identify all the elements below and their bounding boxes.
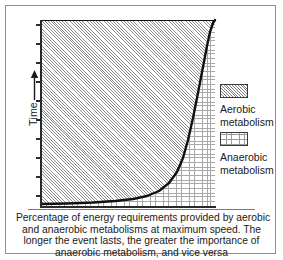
x-axis-line [40,206,216,208]
legend-label-anaerobic-line2: metabolism [220,164,282,177]
legend-item-aerobic: Aerobic metabolism [220,84,282,128]
figure-frame: Time Aerobic metabolism Anaerobic metabo… [5,5,276,254]
caption-line-2: and anaerobic metabolisms at maximum spe… [16,224,267,236]
y-axis-tick [36,62,41,64]
legend-label-aerobic-line1: Aerobic [220,103,282,116]
legend-label-aerobic: Aerobic metabolism [220,103,282,128]
figure-caption: Percentage of energy requirements provid… [16,212,267,258]
y-axis-tick [36,157,41,159]
caption-divider [28,209,255,210]
caption-line-3: longer the event lasts, the greater the … [16,235,267,247]
y-axis-tick [36,195,41,197]
legend-item-anaerobic: Anaerobic metabolism [220,132,282,176]
y-axis-label: Time [27,84,39,144]
legend-label-anaerobic-line1: Anaerobic [220,151,282,164]
y-axis-tick [36,24,41,26]
legend-swatch-aerobic [220,84,248,98]
figure-container: Time Aerobic metabolism Anaerobic metabo… [0,0,283,260]
legend-label-aerobic-line2: metabolism [220,116,282,129]
y-axis-tick [36,176,41,178]
legend-label-anaerobic: Anaerobic metabolism [220,151,282,176]
anaerobic-area-fill [41,20,215,207]
y-axis-tick [36,43,41,45]
plot-region [41,20,215,207]
caption-line-4: anaerobic metabolism, and vice versa [16,247,267,259]
caption-line-1: Percentage of energy requirements provid… [16,212,267,224]
y-axis-line [40,20,42,208]
legend-swatch-anaerobic [220,132,248,146]
area-curve-svg [41,20,215,207]
chart-area: Time Aerobic metabolism Anaerobic metabo… [12,12,281,208]
